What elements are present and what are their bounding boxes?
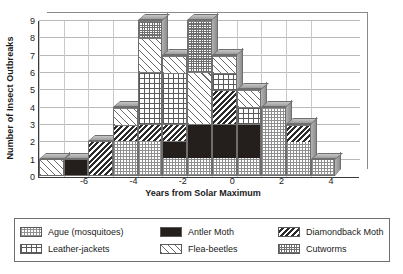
chart-page: Number of Insect Outbreaks 0123456789 -6… — [0, 0, 403, 274]
bar-group — [39, 20, 360, 176]
x-axis-title: Years from Solar Maximum — [38, 188, 368, 198]
y-tick-label: 3 — [30, 121, 35, 130]
bar-segment — [312, 160, 335, 175]
legend-swatch-icon — [20, 227, 42, 237]
bar-segment — [213, 56, 236, 73]
y-tick-label: 1 — [30, 155, 35, 164]
x-tick-label: 2 — [279, 176, 284, 186]
bar-face — [212, 55, 237, 176]
bar-segment — [163, 141, 186, 158]
y-tick-label: 2 — [30, 138, 35, 147]
bar-stack[interactable] — [187, 20, 212, 176]
bar-segment — [139, 38, 162, 72]
bar-stack[interactable] — [113, 107, 138, 176]
bar-segment — [114, 108, 137, 125]
bar-segment — [238, 124, 261, 158]
bar-face — [237, 89, 262, 176]
bar-stack[interactable] — [138, 20, 163, 176]
legend-item[interactable]: Flea-beetles — [160, 244, 278, 254]
bar-segment — [287, 142, 310, 175]
bar-stack[interactable] — [311, 159, 336, 176]
x-tick-label: 0 — [230, 176, 235, 186]
x-tick-label: 4 — [328, 176, 333, 186]
bar-segment — [163, 124, 186, 141]
legend-label: Leather-jackets — [48, 244, 110, 254]
y-tick-label: 7 — [30, 51, 35, 60]
bar-segment — [213, 73, 236, 90]
legend-swatch-icon — [278, 244, 300, 254]
bar-segment — [213, 90, 236, 124]
legend-swatch-icon — [278, 227, 300, 237]
legend-label: Cutworms — [306, 244, 347, 254]
bar-segment — [139, 124, 162, 141]
bar-segment — [114, 141, 137, 175]
bar-face — [138, 20, 163, 176]
bar-segment — [213, 158, 236, 175]
y-tick-label: 6 — [30, 69, 35, 78]
legend-swatch-icon — [160, 227, 182, 237]
bar-face — [187, 20, 212, 176]
bar-segment — [238, 90, 261, 107]
bar-segment — [188, 72, 211, 123]
bar-segment — [262, 108, 285, 175]
y-axis-title-text: Number of Insect Outbreaks — [5, 36, 15, 159]
y-axis-tick-labels: 0123456789 — [20, 12, 36, 178]
bar-segment — [163, 56, 186, 73]
bar-stack[interactable] — [237, 89, 262, 176]
bar-segment — [114, 125, 137, 142]
legend-label: Antler Moth — [188, 227, 234, 237]
legend-row: Ague (mosquitoes)Antler MothDiamondback … — [20, 223, 384, 240]
bar-segment — [238, 158, 261, 175]
bar-face — [261, 107, 286, 176]
legend-item[interactable]: Leather-jackets — [20, 244, 160, 254]
bar-face — [88, 141, 113, 176]
bar-segment — [163, 158, 186, 175]
bar-stack[interactable] — [88, 141, 113, 176]
bar-face — [286, 124, 311, 176]
bar-stack[interactable] — [64, 159, 89, 176]
bar-face — [162, 55, 187, 176]
bar-segment — [139, 141, 162, 175]
legend-item[interactable]: Antler Moth — [160, 227, 278, 237]
bar-stack[interactable] — [261, 107, 286, 176]
legend-item[interactable]: Cutworms — [278, 244, 347, 254]
bar-face — [39, 159, 64, 176]
legend-label: Diamondback Moth — [306, 227, 384, 237]
legend-swatch-icon — [160, 244, 182, 254]
bar-face — [113, 107, 138, 176]
legend-item[interactable]: Diamondback Moth — [278, 227, 384, 237]
legend-swatch-icon — [20, 244, 42, 254]
legend-row: Leather-jacketsFlea-beetlesCutworms — [20, 240, 384, 257]
bar-segment — [238, 107, 261, 124]
y-axis-title: Number of Insect Outbreaks — [2, 18, 18, 178]
y-tick-label: 8 — [30, 34, 35, 43]
x-tick-label: -4 — [129, 176, 137, 186]
bar-stack[interactable] — [212, 55, 237, 176]
y-tick-label: 5 — [30, 86, 35, 95]
chart-legend: Ague (mosquitoes)Antler MothDiamondback … — [14, 218, 390, 262]
bar-segment — [287, 125, 310, 142]
bar-segment — [139, 72, 162, 123]
bar-stack[interactable] — [286, 124, 311, 176]
bar-face — [64, 159, 89, 176]
legend-item[interactable]: Ague (mosquitoes) — [20, 227, 160, 237]
bar-segment — [188, 21, 211, 72]
bar-segment — [65, 160, 88, 175]
x-tick-label: -6 — [80, 176, 88, 186]
bar-face — [311, 159, 336, 176]
bar-segment — [188, 158, 211, 175]
bar-stack[interactable] — [39, 159, 64, 176]
y-tick-label: 4 — [30, 103, 35, 112]
plot-shell — [38, 12, 368, 178]
legend-label: Ague (mosquitoes) — [48, 227, 124, 237]
plot-area — [38, 21, 359, 178]
bar-segment — [188, 124, 211, 158]
bar-segment — [139, 21, 162, 38]
bar-segment — [40, 160, 63, 175]
x-tick-label: -2 — [179, 176, 187, 186]
y-tick-label: 0 — [30, 173, 35, 182]
bar-segment — [213, 124, 236, 158]
bar-segment — [163, 73, 186, 124]
bar-stack[interactable] — [162, 55, 187, 176]
legend-label: Flea-beetles — [188, 244, 238, 254]
